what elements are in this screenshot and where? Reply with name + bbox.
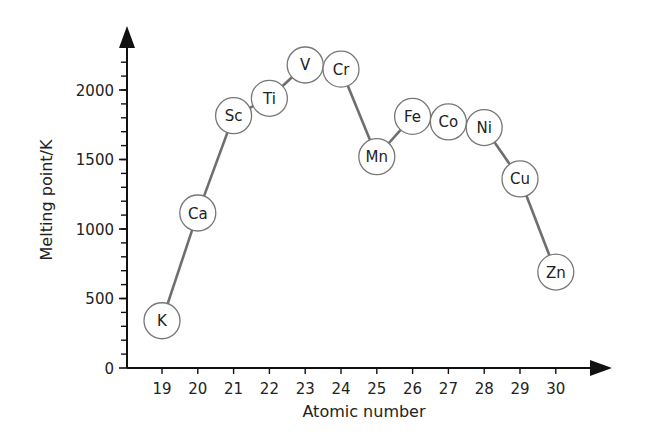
data-point-fe: Fe [395,98,431,134]
x-tick-label: 22 [260,380,279,398]
x-tick-label: 21 [224,380,243,398]
data-point-ni: Ni [466,110,502,146]
x-tick-label: 24 [331,380,350,398]
data-line-segment [348,86,370,140]
data-line-segment [494,142,509,164]
data-point-ti: Ti [251,80,287,116]
x-axis-title: Atomic number [302,402,426,421]
data-line-segment [283,77,292,86]
data-point-label: V [300,56,311,74]
data-points: KCaScTiVCrMnFeCoNiCuZn [144,47,574,339]
x-tick-label: 23 [296,380,315,398]
data-point-label: Co [439,113,459,131]
data-point-k: K [144,303,180,339]
data-point-label: Mn [366,148,388,166]
data-line-segment [389,130,401,143]
data-point-sc: Sc [216,98,252,134]
x-axis-ticks: 192021222324252627282930 [152,368,565,398]
data-point-label: Sc [225,107,243,125]
data-point-cu: Cu [502,161,538,197]
data-point-label: Cu [510,170,530,188]
data-line-segment [168,230,192,304]
data-line-segment [204,133,227,197]
data-point-cr: Cr [323,51,359,87]
melting-point-chart: 0500100015002000 19202122232425262728293… [0,0,649,442]
data-point-label: Fe [404,108,421,126]
x-tick-label: 30 [546,380,565,398]
x-tick-label: 28 [475,380,494,398]
data-point-label: Zn [546,264,566,282]
x-axis-arrow-icon [590,360,612,376]
data-point-ca: Ca [180,195,216,231]
x-tick-label: 26 [403,380,422,398]
y-axis-tick-labels: 0500100015002000 [76,82,127,378]
data-point-zn: Zn [538,254,574,290]
y-axis-title: Melting point/K [37,139,56,260]
data-line-segment [526,196,549,256]
x-tick-label: 19 [152,380,171,398]
data-point-label: Ca [188,205,208,223]
x-tick-label: 20 [188,380,207,398]
y-tick-label: 0 [104,360,114,378]
x-tick-label: 29 [510,380,529,398]
data-point-label: Ni [477,119,492,137]
data-point-label: Cr [333,61,350,79]
y-tick-label: 1000 [76,221,114,239]
y-tick-label: 1500 [76,151,114,169]
data-point-label: Ti [262,90,276,108]
data-point-co: Co [430,104,466,140]
y-tick-label: 2000 [76,82,114,100]
x-tick-label: 27 [439,380,458,398]
y-axis-arrow-icon [119,26,135,48]
data-point-mn: Mn [359,139,395,175]
data-point-v: V [287,47,323,83]
data-point-label: K [157,312,168,330]
x-tick-label: 25 [367,380,386,398]
y-tick-label: 500 [85,290,114,308]
